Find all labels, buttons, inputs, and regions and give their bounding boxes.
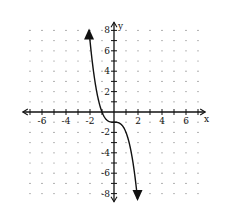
svg-text:4: 4 (159, 116, 165, 126)
curve-arrowheads (84, 28, 142, 201)
svg-text:-2: -2 (86, 116, 95, 126)
svg-text:-4: -4 (101, 148, 110, 158)
svg-text:-6: -6 (38, 116, 47, 126)
svg-text:-2: -2 (101, 127, 110, 137)
function-curve (89, 30, 137, 199)
x-axis-label: x (204, 114, 209, 124)
svg-text:2: 2 (104, 87, 110, 97)
svg-text:2: 2 (135, 116, 141, 126)
function-graph: -6-4-22468642-2-4-6-8 x y (0, 0, 226, 215)
svg-text:-6: -6 (101, 168, 110, 178)
svg-text:8: 8 (104, 25, 110, 35)
svg-text:6: 6 (104, 46, 110, 56)
svg-text:6: 6 (183, 116, 189, 126)
svg-text:4: 4 (104, 66, 110, 76)
svg-text:-8: -8 (101, 189, 110, 199)
axes (23, 22, 205, 202)
y-axis-label: y (117, 21, 124, 31)
svg-text:-4: -4 (62, 116, 71, 126)
